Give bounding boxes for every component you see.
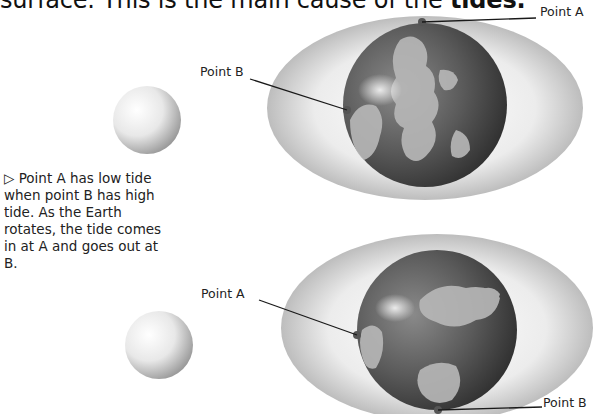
caption-text: Point A has low tide when point B has hi… — [4, 170, 161, 271]
top-point-a-label: Point A — [540, 4, 584, 19]
globe-highlight — [375, 294, 415, 322]
top-point-b-label: Point B — [200, 64, 244, 79]
bottom-tide-diagram — [125, 234, 593, 414]
caption: ▷ Point A has low tide when point B has … — [4, 170, 174, 272]
top-tide-diagram — [113, 16, 583, 200]
moon — [113, 86, 181, 154]
triangle-marker-icon: ▷ — [4, 170, 14, 186]
moon — [125, 311, 193, 379]
globe-highlight — [358, 74, 402, 106]
bottom-point-b-label: Point B — [543, 395, 587, 410]
bottom-point-a-label: Point A — [201, 286, 245, 301]
